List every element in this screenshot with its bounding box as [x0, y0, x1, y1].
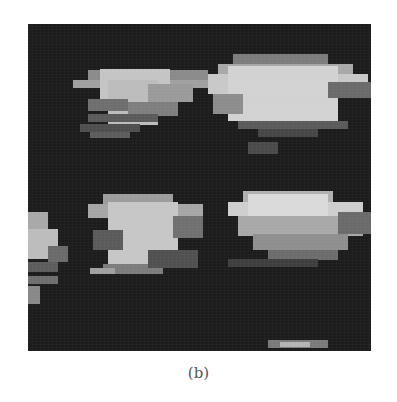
- image-pixel-block: [248, 142, 278, 154]
- image-pixel-block: [238, 121, 348, 129]
- image-pixel-block: [148, 250, 198, 268]
- figure-caption: (b): [0, 364, 397, 382]
- image-pixel-block: [338, 212, 371, 234]
- image-pixel-block: [328, 82, 371, 98]
- image-pixel-block: [90, 268, 115, 274]
- image-pixel-block: [28, 286, 40, 304]
- image-pixel-block: [28, 262, 58, 272]
- image-pixel-block: [228, 66, 338, 121]
- image-pixel-block: [90, 132, 130, 138]
- image-pixel-block: [28, 276, 58, 284]
- image-pixel-block: [213, 94, 243, 114]
- image-pixel-block: [258, 129, 318, 137]
- image-pixel-block: [280, 342, 310, 347]
- figure-image-panel: [28, 24, 371, 351]
- image-pixel-block: [173, 216, 203, 238]
- image-pixel-block: [93, 230, 123, 250]
- image-pixel-block: [148, 84, 193, 102]
- image-pixel-block: [88, 114, 158, 122]
- image-pixel-block: [253, 234, 348, 250]
- image-pixel-block: [233, 54, 328, 64]
- image-pixel-block: [228, 259, 318, 267]
- image-pixel-block: [48, 246, 68, 262]
- image-pixel-block: [88, 99, 128, 111]
- image-pixel-block: [80, 124, 140, 132]
